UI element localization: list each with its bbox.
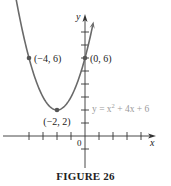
equation-label: y = x2 + 4x + 6 — [92, 102, 150, 114]
point-label: (0, 6) — [90, 53, 112, 65]
data-point-marker — [55, 108, 60, 113]
figure-caption: FIGURE 26 — [0, 170, 171, 182]
parabola-figure: (−4, 6)(0, 6)(−2, 2) xy0y = x2 + 4x + 6 … — [0, 0, 171, 186]
data-point-marker — [27, 56, 32, 61]
point-label: (−4, 6) — [34, 53, 61, 65]
origin-label: 0 — [77, 138, 82, 148]
point-label: (−2, 2) — [43, 116, 70, 128]
plot-area: (−4, 6)(0, 6)(−2, 2) xy0y = x2 + 4x + 6 — [0, 0, 171, 186]
y-axis-label: y — [75, 11, 81, 22]
x-axis-label: x — [149, 137, 155, 148]
data-point-marker — [83, 56, 88, 61]
